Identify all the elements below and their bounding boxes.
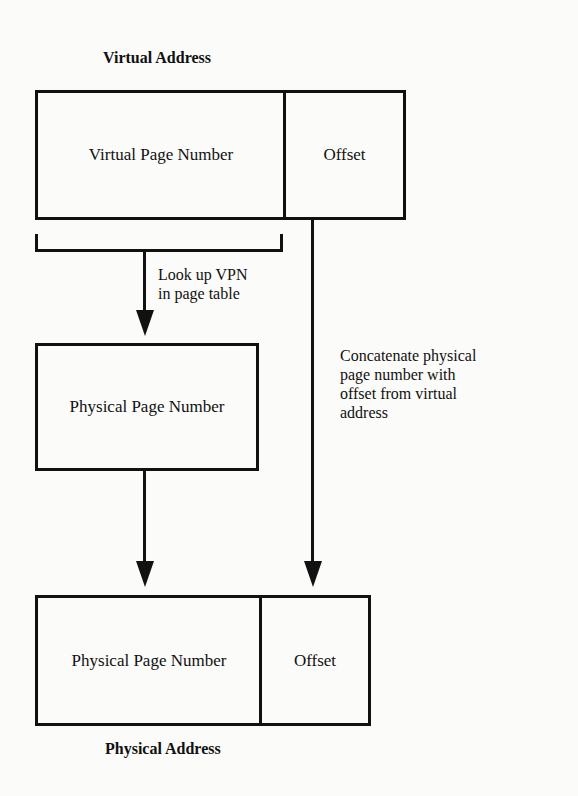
concatenate-note-line: Concatenate physical xyxy=(340,346,476,365)
physical-page-number-box: Physical Page Number xyxy=(35,343,259,471)
physical-page-number-field: Physical Page Number xyxy=(38,598,260,723)
lookup-note-line: in page table xyxy=(158,284,248,303)
physical-address-title: Physical Address xyxy=(105,740,221,758)
bracket-bottom xyxy=(35,249,283,252)
physical-page-number-label: Physical Page Number xyxy=(38,346,256,468)
ppn-arrow-shaft xyxy=(143,470,146,566)
virtual-page-number-field: Virtual Page Number xyxy=(38,93,284,217)
lookup-note-line: Look up VPN xyxy=(158,265,248,284)
virtual-offset-field: Offset xyxy=(286,93,403,217)
ppn-arrowhead-icon xyxy=(136,561,154,587)
virtual-address-title: Virtual Address xyxy=(103,49,211,67)
physical-offset-field: Offset xyxy=(262,598,368,723)
offset-arrow-shaft xyxy=(311,218,314,566)
concatenate-note-line: page number with xyxy=(340,365,476,384)
lookup-note: Look up VPN in page table xyxy=(158,265,248,303)
physical-address-box: Physical Page Number Offset xyxy=(35,595,371,726)
virtual-address-box: Virtual Page Number Offset xyxy=(35,90,406,220)
lookup-arrow-shaft xyxy=(143,250,146,316)
concatenate-note-line: offset from virtual xyxy=(340,384,476,403)
offset-arrowhead-icon xyxy=(304,561,322,587)
lookup-arrowhead-icon xyxy=(136,310,154,336)
concatenate-note-line: address xyxy=(340,403,476,422)
concatenate-note: Concatenate physical page number with of… xyxy=(340,346,476,422)
